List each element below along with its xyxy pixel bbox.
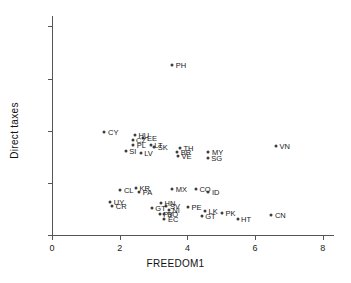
data-point <box>163 217 166 220</box>
data-point <box>236 217 239 220</box>
data-point <box>220 212 223 215</box>
data-point-label: GT <box>205 212 215 221</box>
data-point <box>153 146 156 149</box>
x-tick-mark <box>187 236 188 240</box>
data-point <box>270 213 273 216</box>
data-point-label: SG <box>211 153 222 162</box>
scatter-plot-figure: 02468 05101520 FREEDOM1 Direct taxes PHC… <box>0 0 351 283</box>
data-point-label: PH <box>176 61 186 70</box>
x-tick-label: 2 <box>117 243 122 253</box>
data-point-label: CL <box>124 185 134 194</box>
data-point-label: CR <box>116 202 127 211</box>
data-point <box>207 151 210 154</box>
data-point <box>206 156 209 159</box>
data-point-label: CY <box>108 128 118 137</box>
data-point <box>200 215 203 218</box>
y-axis-tick-labels: 05101520 <box>0 0 44 283</box>
x-axis-title: FREEDOM1 <box>0 258 351 269</box>
y-tick-mark <box>48 235 52 236</box>
data-point <box>158 212 161 215</box>
data-point-label: ID <box>212 188 220 197</box>
data-point-label: CN <box>275 210 286 219</box>
data-point <box>171 188 174 191</box>
data-point <box>124 150 127 153</box>
data-point-label: VN <box>280 141 290 150</box>
data-point <box>119 188 122 191</box>
data-point <box>109 201 112 204</box>
x-tick-label: 8 <box>320 243 325 253</box>
data-point <box>176 155 179 158</box>
data-point-label: MX <box>176 185 187 194</box>
data-point <box>134 186 137 189</box>
data-point <box>131 138 134 141</box>
data-point <box>171 64 174 67</box>
data-point-label: LV <box>144 149 153 158</box>
data-point <box>187 205 190 208</box>
y-axis-title: Direct taxes <box>9 71 20 191</box>
data-point-label: PA <box>143 187 152 196</box>
data-point <box>111 205 114 208</box>
data-point <box>176 150 179 153</box>
data-point <box>103 131 106 134</box>
x-tick-mark <box>120 236 121 240</box>
data-point <box>150 206 153 209</box>
data-point-label: PE <box>192 202 202 211</box>
x-tick-mark <box>52 236 53 240</box>
data-point-label: SK <box>158 143 168 152</box>
data-point <box>207 191 210 194</box>
x-tick-label: 0 <box>49 243 54 253</box>
data-point-label: PK <box>225 209 235 218</box>
x-tick-label: 4 <box>185 243 190 253</box>
x-axis-line <box>52 235 334 236</box>
data-point-label: EC <box>168 214 178 223</box>
x-tick-label: 6 <box>253 243 258 253</box>
x-tick-mark <box>323 236 324 240</box>
data-point-label: VE <box>181 152 191 161</box>
data-point-label: HT <box>241 214 251 223</box>
data-point-label: SI <box>129 147 136 156</box>
data-point <box>139 152 142 155</box>
data-point <box>162 213 165 216</box>
x-tick-mark <box>255 236 256 240</box>
data-point <box>194 187 197 190</box>
data-point <box>138 190 141 193</box>
data-point <box>275 144 278 147</box>
